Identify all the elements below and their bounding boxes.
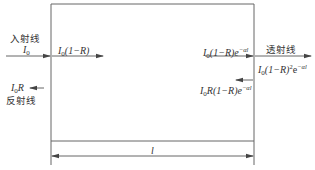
factor: (1−R): [65, 45, 90, 56]
refracted-intensity: I0(1−R): [58, 45, 89, 60]
inner-intensity: I0(1−R)e−αl: [203, 44, 248, 62]
diagram-canvas: [0, 0, 315, 170]
reflected-label: 反射线: [6, 95, 36, 106]
incident-label: 入射线: [10, 33, 40, 44]
factor: R(1−R)e: [207, 85, 242, 96]
incident-intensity: I0: [23, 44, 30, 59]
factor: (1−R): [265, 64, 290, 75]
factor: (1−R)e: [210, 47, 239, 58]
subscript-0: 0: [26, 49, 30, 57]
thickness-label: l: [151, 145, 154, 156]
back-reflected-intensity: I0R(1−R)e−αl: [200, 82, 252, 100]
transmitted-intensity: I0(1−R)2e−αl: [258, 61, 307, 79]
exponent: −αl: [242, 84, 252, 91]
symbol-R: R: [18, 82, 24, 93]
transmitted-label: 透射线: [266, 44, 296, 55]
exponent: −αl: [297, 63, 307, 70]
exponent: −αl: [239, 46, 249, 53]
